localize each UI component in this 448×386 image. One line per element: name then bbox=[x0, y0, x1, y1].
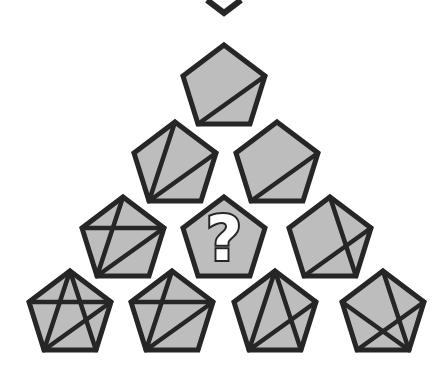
pentagon-pyramid: ? bbox=[29, 45, 424, 350]
pentagon-tile bbox=[236, 122, 318, 201]
pentagon-tile bbox=[29, 271, 111, 350]
pentagon-unknown: ? bbox=[183, 197, 265, 276]
question-mark-icon: ? bbox=[206, 202, 242, 275]
top-chevron-shape bbox=[207, 0, 241, 13]
pentagon-tile bbox=[82, 197, 164, 276]
puzzle-diagram: ? bbox=[0, 0, 448, 386]
pentagon-tile bbox=[342, 271, 424, 350]
pentagon-tile bbox=[234, 271, 316, 350]
chevron-icon bbox=[207, 0, 241, 13]
pentagon-tile bbox=[183, 45, 265, 124]
pentagon-tile bbox=[134, 122, 216, 201]
pentagon-tile bbox=[289, 197, 371, 276]
pentagon-tile bbox=[131, 271, 213, 350]
